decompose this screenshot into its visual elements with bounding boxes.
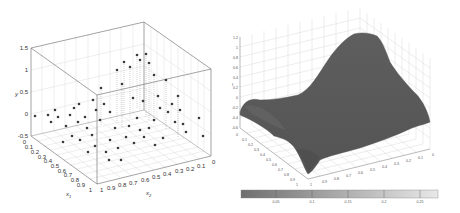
x1-tick: 0.3 [254,148,259,152]
x2-tick: 0 [212,159,216,165]
x2-tick: 0.1 [418,156,423,160]
colorbar-tick: 0.1 [310,200,315,204]
z-axis-label: y [14,91,19,97]
scatter-3d-plot: 1.5 1 0.5 0 -0.5 y 0 0.1 0.2 0.3 0.4 0.5… [0,0,230,213]
x1-tick: 0.9 [290,178,295,182]
x2-tick: 1 [310,183,312,187]
x1-axis-ticks: 0 0.1 0.2 0.3 0.4 0.5 0.6 0.7 0.8 0.9 1 … [23,139,93,199]
x2-axis-label: x2 [145,190,152,198]
x2-tick: 0.7 [346,174,351,178]
z-tick: 0.5 [20,89,29,95]
z-tick: -0.4 [232,116,238,120]
x1-tick: 0.4 [260,153,265,157]
x2-tick: 0.3 [175,168,184,174]
x2-axis-ticks: 1 0.9 0.8 0.7 0.6 0.5 0.4 0.3 0.2 0.1 0 [310,153,434,187]
x2-tick: 1 [100,187,104,193]
colorbar-tick: 0.15 [345,200,352,204]
x1-tick: 0.8 [284,173,289,177]
x1-axis-label: x1 [65,191,71,199]
x1-tick: 1 [296,183,298,187]
z-axis-label: f [232,83,233,87]
x1-tick: 0.7 [278,168,283,172]
x1-tick: 0.2 [248,143,253,147]
x2-tick: 0.9 [322,180,327,184]
colorbar-tick: 0.2 [382,200,387,204]
scatter-3d-canvas: 1.5 1 0.5 0 -0.5 y 0 0.1 0.2 0.3 0.4 0.5… [0,0,230,213]
x2-tick: 0.2 [186,166,195,172]
x2-tick: 0.6 [141,177,150,183]
x2-tick: 0.8 [334,177,339,181]
x2-tick: 0.3 [394,162,399,166]
x2-tick: 0 [432,153,434,157]
x2-axis-ticks: 1 0.9 0.8 0.7 0.6 0.5 0.4 0.3 0.2 0.1 0 … [100,159,216,198]
z-tick: 0 [236,96,238,100]
z-tick: 1.2 [233,36,238,40]
x1-tick: 0 [236,133,238,137]
colorbar-tick: 0.05 [273,200,280,204]
x2-tick: 0.5 [370,168,375,172]
x2-tick: 0.9 [107,185,116,191]
x2-tick: 0.1 [197,163,206,169]
x2-tick: 0.6 [358,171,363,175]
z-tick: -0.6 [232,126,238,130]
grid-lines [31,25,211,180]
z-tick: 1.5 [20,45,29,51]
z-tick: 1 [25,67,29,73]
x1-tick: 0.5 [266,158,271,162]
surface-3d-canvas: 1.2 1 0.8 0.6 0.4 0.2 0 -0.2 -0.4 -0.6 f… [230,0,460,213]
x1-tick: 1 [89,187,93,193]
z-tick: 0 [25,111,29,117]
x1-tick: 0.9 [77,182,86,188]
x2-tick: 0.2 [406,159,411,163]
surface-3d-plot: 1.2 1 0.8 0.6 0.4 0.2 0 -0.2 -0.4 -0.6 f… [230,0,460,213]
z-tick: 0.6 [233,66,238,70]
z-tick: 0.2 [233,86,238,90]
z-axis-ticks: 1.2 1 0.8 0.6 0.4 0.2 0 -0.2 -0.4 -0.6 f [232,36,238,130]
z-tick: 0.4 [233,76,238,80]
x2-tick: 0.4 [382,165,387,169]
x2-tick: 0.8 [118,182,127,188]
z-tick: 0.8 [233,56,238,60]
x1-tick: 0.1 [242,138,247,142]
colorbar-tick: 0.25 [417,200,424,204]
colorbar-gradient [241,190,438,198]
z-tick: -0.2 [232,106,238,110]
x1-tick: 0.6 [272,163,277,167]
z-tick: 1 [236,46,238,50]
x2-tick: 0.4 [163,171,172,177]
colorbar: 0.05 0.1 0.15 0.2 0.25 [241,190,438,204]
x2-tick: 0.5 [152,174,161,180]
x2-tick: 0.7 [129,180,138,186]
z-axis-ticks: 1.5 1 0.5 0 -0.5 y [14,45,29,139]
